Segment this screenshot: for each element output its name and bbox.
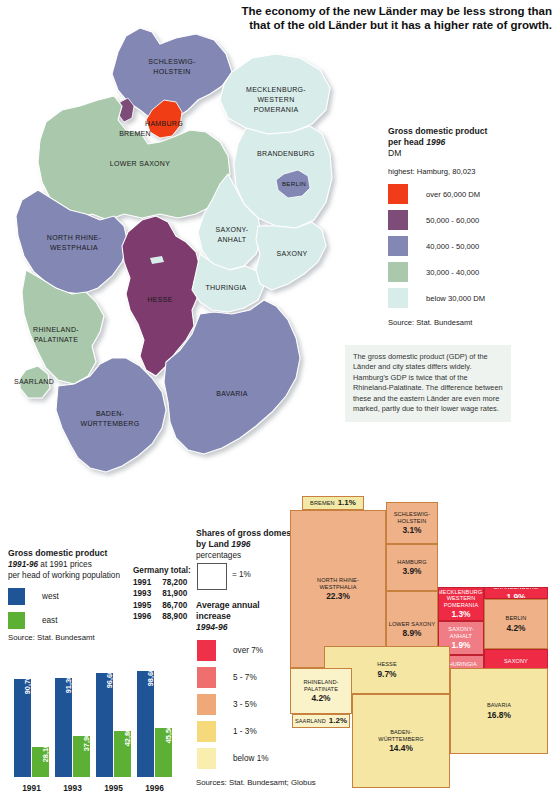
shares-title-pre: by Land — [196, 539, 231, 549]
treemap-cell-north-rhine-westphalia: NORTH RHINE-WESTPHALIA22.3% — [290, 510, 386, 668]
bar-value-label: 90,700 — [23, 672, 32, 695]
treemap-cell-percentage: 1.3% — [451, 609, 470, 619]
treemap-cell-name: SAXONY-ANHALT — [448, 626, 473, 639]
treemap-cell-name: RHINELAND-PALATINATE — [303, 679, 338, 692]
treemap-cell-schleswig-holstein: SCHLESWIG-HOLSTEIN3.1% — [386, 502, 438, 544]
gdp-legend-heading: Gross domestic product per head 1996 — [388, 126, 553, 148]
bar-chart-subtitle-rest: at 1991 prices — [38, 560, 92, 569]
growth-legend-item: below 1% — [197, 745, 269, 772]
bar-east-1996: 45,500 — [155, 728, 172, 777]
gdp-legend-heading-line1: Gross domestic product — [388, 126, 487, 136]
x-axis-tick-1995: 1995 — [96, 783, 131, 793]
treemap-cell-percentage: 1.9% — [506, 592, 525, 599]
treemap-cell-percentage: 4.2% — [311, 693, 330, 703]
bar-east-1991: 28,100 — [32, 747, 49, 777]
x-axis-tick-1996: 1996 — [137, 783, 172, 793]
bar-value-label: 96,600 — [105, 666, 114, 689]
total-year: 1995 — [133, 600, 162, 612]
treemap-cell-name: NORTH RHINE-WESTPHALIA — [317, 577, 359, 590]
treemap-cell-percentage: 22.3% — [326, 591, 350, 601]
gdp-legend-item: below 30,000 DM — [388, 287, 553, 310]
svg-text:ANHALT: ANHALT — [218, 236, 247, 243]
bar-value-label: 28,100 — [41, 740, 50, 763]
growth-swatch-5-7 — [197, 667, 216, 688]
treemap-cell-name: HAMBURG — [397, 559, 426, 566]
gdp-swatch-40000-50000 — [388, 236, 408, 256]
table-row: 1991 78,200 — [133, 577, 187, 589]
treemap-cell-bremen: BREMEN1.1% — [302, 496, 364, 510]
total-year: 1991 — [133, 577, 162, 589]
svg-text:BREMEN: BREMEN — [119, 130, 151, 137]
treemap-cell-name: BAVARIA — [487, 702, 511, 709]
svg-text:SCHLESWIG-: SCHLESWIG- — [148, 58, 196, 65]
svg-text:SAXONY-: SAXONY- — [216, 226, 249, 233]
svg-text:NORTH RHINE-: NORTH RHINE- — [47, 234, 102, 241]
bar-chart-source: Source: Stat. Bundesamt — [8, 633, 95, 642]
growth-period: 1994-96 — [196, 622, 228, 632]
treemap-cell-percentage: 14.4% — [389, 743, 413, 753]
growth-swatch-3-5 — [197, 694, 216, 715]
bar-chart-title: Gross domestic product — [8, 548, 188, 559]
shares-year: 1996 — [231, 539, 250, 549]
map-region-mecklenburg-western-pomerania — [220, 54, 330, 134]
gdp-legend-year: 1996 — [426, 137, 445, 147]
explanatory-note: The gross domestic product (GDP) of the … — [345, 345, 511, 422]
gdp-swatch-over-60000 — [388, 184, 408, 204]
svg-text:WÜRTTEMBERG: WÜRTTEMBERG — [81, 420, 140, 427]
treemap-cell-name: BADEN-WÜRTTEMBERG — [378, 729, 423, 742]
bar-east-1993: 37,900 — [73, 736, 90, 777]
svg-text:WESTPHALIA: WESTPHALIA — [50, 244, 98, 251]
growth-heading-line2: increase — [196, 611, 231, 621]
gdp-legend: Gross domestic product per head 1996 DM … — [388, 126, 553, 327]
legend-swatch-east — [8, 612, 25, 629]
growth-legend-heading: Average annual increase 1994-96 — [196, 600, 260, 633]
treemap-cell-name: LOWER SAXONY — [389, 621, 436, 628]
bar-value-label: 37,900 — [82, 729, 91, 752]
germany-totals-table: Germany total: 1991 78,200 1993 81,900 1… — [133, 565, 191, 623]
svg-text:HESSE: HESSE — [147, 296, 172, 303]
growth-legend-item: 3 - 5% — [197, 691, 269, 718]
svg-text:MECKLENBURG-: MECKLENBURG- — [246, 86, 306, 93]
svg-text:BRANDENBURG: BRANDENBURG — [257, 150, 315, 157]
growth-legend-item: over 7% — [197, 637, 269, 664]
svg-text:HAMBURG: HAMBURG — [145, 120, 183, 127]
treemap-cell-percentage: 1.9% — [451, 640, 470, 650]
legend-label-east: east — [42, 616, 57, 625]
bar-west-1996: 98,600 — [137, 671, 154, 777]
treemap-cell-percentage: 8.9% — [402, 628, 421, 638]
gdp-shares-treemap: BREMEN1.1%NORTH RHINE-WESTPHALIA22.3%SCH… — [290, 496, 560, 788]
treemap-cell-bavaria: BAVARIA16.8% — [450, 668, 548, 754]
growth-heading-line1: Average annual — [196, 600, 260, 610]
gdp-legend-item: 40,000 - 50,000 — [388, 235, 553, 258]
treemap-cell-percentage: 3.9% — [402, 566, 421, 576]
treemap-cell-name: BERLIN — [506, 615, 527, 622]
growth-legend-item: 1 - 3% — [197, 718, 269, 745]
treemap-cell-name: BRANDENBURG — [494, 587, 539, 591]
growth-legend-label: 3 - 5% — [233, 700, 257, 709]
total-value: 86,700 — [162, 600, 187, 612]
treemap-cell-percentage: 9.7% — [377, 669, 396, 679]
gdp-legend-item: 50,000 - 60,000 — [388, 209, 553, 232]
gdp-legend-label: 50,000 - 60,000 — [426, 216, 479, 225]
treemap-cell-percentage: 16.8% — [487, 710, 511, 720]
treemap-cell-berlin: BERLIN4.2% — [484, 599, 548, 649]
bar-value-label: 91,300 — [64, 671, 73, 694]
total-year: 1993 — [133, 588, 162, 600]
legend-label-west: west — [42, 592, 59, 601]
gdp-legend-label: over 60,000 DM — [426, 190, 480, 199]
svg-text:BERLIN: BERLIN — [282, 180, 306, 187]
treemap-cell-percentage: 3.1% — [402, 525, 421, 535]
svg-text:SAXONY: SAXONY — [277, 250, 308, 257]
svg-text:THURINGIA: THURINGIA — [205, 284, 246, 291]
svg-text:BADEN-: BADEN- — [96, 410, 125, 417]
total-value: 81,900 — [162, 588, 187, 600]
svg-text:LOWER SAXONY: LOWER SAXONY — [110, 160, 170, 167]
gdp-legend-source: Source: Stat. Bundesamt — [388, 318, 553, 327]
total-value: 78,200 — [162, 577, 187, 589]
treemap-cell-percentage: 1.2% — [329, 716, 347, 726]
gdp-legend-highest: highest: Hamburg, 80,023 — [388, 167, 553, 176]
bar-value-label: 98,600 — [146, 664, 155, 687]
svg-text:PALATINATE: PALATINATE — [34, 336, 78, 343]
growth-legend-label: 1 - 3% — [233, 727, 257, 736]
growth-swatch-1-3 — [197, 721, 216, 742]
